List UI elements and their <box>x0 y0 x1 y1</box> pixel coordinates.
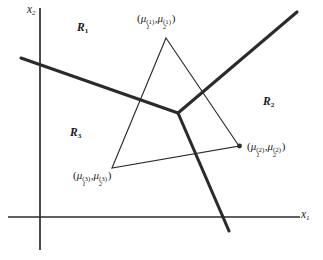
figure-root: x2 x1 R1 R2 R3 (μ1(1),μ2(1)) (μ1(2),μ2(2… <box>0 0 323 260</box>
triangle-outline <box>112 38 239 168</box>
x-axis-label: x1 <box>301 209 310 221</box>
mu1-close-paren: ) <box>172 12 176 24</box>
boundary-r2-r3 <box>178 113 229 231</box>
y-axis-label: x2 <box>27 4 36 16</box>
axes-group <box>8 8 300 250</box>
mean-point-label-mu2: (μ1(2),μ2(2)) <box>247 141 285 152</box>
mu1-sup-2: (1) <box>163 19 171 26</box>
decision-boundaries <box>21 12 297 231</box>
figure-canvas <box>0 0 323 260</box>
region-label-r2: R2 <box>263 96 274 108</box>
y-axis-label-sub: 2 <box>32 9 36 17</box>
mean-point-label-mu1: (μ1(1),μ2(1)) <box>137 13 175 24</box>
mu3-sup-2: (3) <box>99 176 107 183</box>
mu2-sup-1: (2) <box>256 147 264 154</box>
mean-point-marker-mu2 <box>237 144 242 149</box>
region-label-r1-letter: R <box>77 21 85 33</box>
x-axis-label-sub: 1 <box>306 214 310 222</box>
mu3-close-paren: ) <box>108 169 112 181</box>
region-label-r1: R1 <box>77 22 88 34</box>
mu2-sup-2: (2) <box>273 147 281 154</box>
region-label-r2-sub: 2 <box>271 101 275 109</box>
mu2-close-paren: ) <box>282 140 286 152</box>
boundary-r1-r2 <box>178 12 297 113</box>
region-label-r1-sub: 1 <box>85 27 89 35</box>
mean-point-label-mu3: (μ1(3),μ2(3)) <box>73 170 111 181</box>
region-label-r3-letter: R <box>70 126 78 138</box>
region-label-r2-letter: R <box>263 95 271 107</box>
mu3-sup-1: (3) <box>82 176 90 183</box>
mean-vector-triangle <box>112 38 239 168</box>
mu1-sup-1: (1) <box>146 19 154 26</box>
region-label-r3: R3 <box>70 127 81 139</box>
region-label-r3-sub: 3 <box>78 132 82 140</box>
